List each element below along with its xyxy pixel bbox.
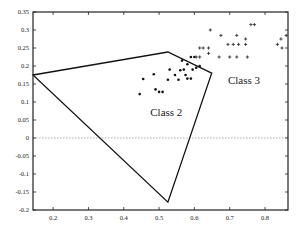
class2-point: [138, 93, 141, 96]
annotation-class-3: Class 3: [228, 74, 261, 86]
class2-point: [190, 56, 193, 59]
class3-point: [280, 46, 283, 49]
class2-point: [174, 74, 177, 77]
class2-point: [195, 67, 198, 70]
class3-point: [232, 43, 235, 46]
class3-point: [249, 23, 252, 26]
class2-point: [190, 77, 193, 80]
class2-point: [186, 77, 189, 80]
class2-point: [161, 91, 164, 94]
class2-point: [181, 59, 184, 62]
class2-point: [168, 68, 171, 71]
class3-point: [276, 43, 279, 46]
class3-point: [219, 34, 222, 37]
class2-point: [186, 63, 189, 66]
class3-point: [237, 43, 240, 46]
x-tick-label: 0.6: [190, 214, 199, 221]
class2-point: [158, 91, 161, 94]
class3-point: [244, 43, 247, 46]
y-tick-label: 0.3: [21, 26, 29, 33]
class3-point: [235, 55, 238, 58]
class3-point: [209, 28, 212, 31]
x-tick-label: 0.4: [120, 214, 129, 221]
y-tick-label: 0.1: [21, 98, 29, 105]
class3-point: [253, 23, 256, 26]
y-tick-label: 0: [26, 134, 29, 141]
x-tick-label: 0.7: [226, 214, 235, 221]
class3-point: [244, 37, 247, 40]
data-points: [138, 23, 287, 95]
y-tick-label: 0.2: [21, 62, 29, 69]
class3-point: [207, 46, 210, 49]
class2-point: [179, 69, 182, 72]
scatter-chart: 0.20.30.40.50.60.70.80.350.30.250.20.150…: [0, 0, 302, 227]
class3-point: [226, 43, 229, 46]
x-tick-label: 0.3: [84, 214, 92, 221]
y-tick-label: -0.1: [19, 170, 29, 177]
class3-point: [218, 55, 221, 58]
y-tick-label: -0.05: [15, 152, 29, 159]
y-tick-label: -0.2: [19, 206, 29, 213]
y-tick-label: 0.35: [18, 8, 29, 15]
class2-point: [167, 78, 170, 81]
y-tick-label: 0.25: [18, 44, 29, 51]
class3-point: [285, 34, 288, 37]
x-tick-label: 0.2: [49, 214, 57, 221]
class3-point: [202, 46, 205, 49]
x-tick-label: 0.8: [261, 214, 269, 221]
y-tick-label: 0.15: [18, 80, 29, 87]
class2-point: [142, 78, 145, 81]
class2-point: [152, 73, 155, 76]
y-tick-label: -0.15: [15, 188, 29, 195]
class3-point: [198, 46, 201, 49]
x-tick-label: 0.5: [155, 214, 163, 221]
class3-point: [235, 34, 238, 37]
class3-point: [198, 55, 201, 58]
class2-point: [184, 74, 187, 77]
class3-point: [246, 55, 249, 58]
class3-point: [207, 52, 210, 55]
class2-point: [183, 68, 186, 71]
annotation-class-2: Class 2: [150, 106, 182, 118]
class2-point: [177, 78, 180, 81]
class3-point: [228, 55, 231, 58]
y-tick-label: 0.05: [18, 116, 29, 123]
class2-point: [191, 68, 194, 71]
class3-point: [279, 37, 282, 40]
class2-point: [154, 88, 157, 91]
class2-point: [198, 65, 201, 68]
